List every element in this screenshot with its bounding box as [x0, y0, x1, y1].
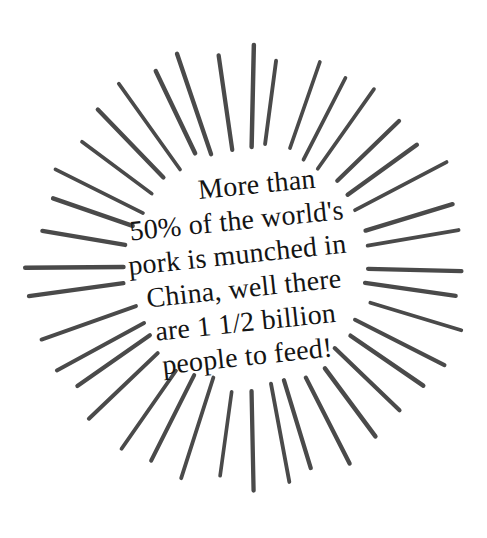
burst-ray	[177, 54, 211, 154]
burst-ray	[252, 391, 254, 490]
burst-ray	[119, 84, 180, 170]
burst-ray	[29, 283, 124, 296]
burst-ray	[265, 61, 276, 144]
burst-ray	[98, 110, 164, 178]
burst-ray	[355, 162, 447, 210]
sunburst-graphic: More than 50% of the world's pork is mun…	[0, 0, 487, 538]
burst-ray	[335, 348, 400, 410]
burst-ray	[220, 392, 232, 476]
burst-ray	[219, 55, 233, 149]
burst-ray	[365, 283, 456, 296]
burst-ray	[252, 45, 254, 147]
burst-ray	[348, 145, 417, 195]
burst-ray	[25, 267, 123, 268]
burst-ray	[355, 320, 444, 365]
burst-ray	[366, 204, 453, 230]
burst-ray	[271, 384, 289, 482]
starburst-rays	[0, 0, 487, 538]
burst-ray	[370, 303, 461, 331]
burst-ray	[284, 380, 311, 468]
burst-ray	[368, 269, 461, 271]
burst-ray	[351, 336, 424, 386]
burst-ray	[42, 231, 125, 245]
burst-ray	[77, 335, 150, 386]
burst-ray	[151, 375, 194, 461]
ray-group	[25, 45, 461, 491]
burst-ray	[368, 230, 459, 246]
burst-ray	[318, 89, 374, 169]
